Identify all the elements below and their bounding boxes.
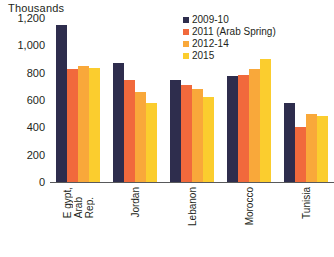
bar[interactable] <box>124 80 135 182</box>
x-axis-line <box>50 182 334 183</box>
bar-group <box>56 18 100 182</box>
bar[interactable] <box>227 76 238 182</box>
bar[interactable] <box>170 80 181 183</box>
y-axis-tick-label: 800 <box>27 67 45 79</box>
bar[interactable] <box>260 59 271 182</box>
x-axis-category-line: Jordan <box>130 187 141 218</box>
x-axis-category: E gypt,ArabRep. <box>56 185 100 257</box>
bar[interactable] <box>78 66 89 182</box>
bar[interactable] <box>284 103 295 182</box>
bar-group <box>284 18 328 182</box>
bar[interactable] <box>56 25 67 182</box>
x-axis-category-labels: E gypt,ArabRep.JordanLebanonMoroccoTunis… <box>50 185 332 257</box>
bar-group <box>113 18 157 182</box>
bar[interactable] <box>306 114 317 182</box>
bar[interactable] <box>238 75 249 182</box>
x-axis-category-line: Rep. <box>84 187 95 218</box>
x-axis-category-line: Arab <box>73 187 84 218</box>
bar-chart: Thousands 2009-102011 (Arab Spring)2012-… <box>0 0 334 257</box>
y-axis-tick-label: 600 <box>27 94 45 106</box>
bar[interactable] <box>192 89 203 182</box>
bar[interactable] <box>135 92 146 182</box>
y-axis-tick-label: 1,200 <box>17 12 45 24</box>
x-axis-category-line: E gypt, <box>62 187 73 218</box>
bar[interactable] <box>146 103 157 182</box>
bar[interactable] <box>295 127 306 182</box>
bar[interactable] <box>203 97 214 182</box>
x-axis-category-line: Lebanon <box>187 187 198 226</box>
y-axis-tick-label: 1,000 <box>17 39 45 51</box>
x-axis-category: Lebanon <box>170 185 214 257</box>
x-axis-category: Jordan <box>113 185 157 257</box>
bar[interactable] <box>89 68 100 182</box>
bar[interactable] <box>181 85 192 182</box>
x-axis-category: Tunisia <box>284 185 328 257</box>
y-axis-tick-label: 400 <box>27 121 45 133</box>
bar[interactable] <box>113 63 124 182</box>
x-axis-category: Morocco <box>227 185 271 257</box>
bar-group <box>227 18 271 182</box>
x-axis-category-line: Morocco <box>244 187 255 225</box>
plot-area: 1,2001,0008006004002000 <box>50 18 332 182</box>
x-axis-category-line: Tunisia <box>301 187 312 219</box>
bar[interactable] <box>317 116 328 182</box>
bar-group <box>170 18 214 182</box>
bar[interactable] <box>249 69 260 182</box>
bar[interactable] <box>67 69 78 182</box>
y-axis-tick-label: 0 <box>39 176 45 188</box>
bar-groups <box>50 18 332 182</box>
y-axis-tick-label: 200 <box>27 149 45 161</box>
